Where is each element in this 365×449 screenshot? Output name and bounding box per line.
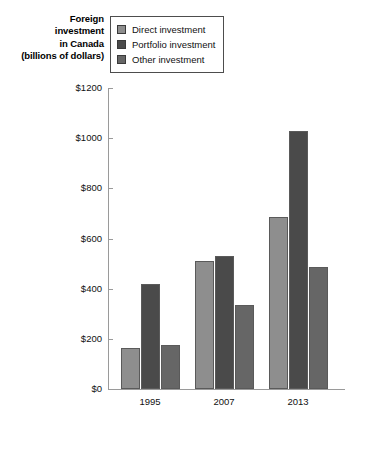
y-tick-label-200: $200: [81, 334, 102, 344]
legend-swatch-other: [117, 55, 126, 64]
y-tick-label-0: $0: [91, 384, 102, 394]
bar-2007-portfolio-investment: [215, 256, 234, 389]
legend-item-other: Other investment: [117, 52, 215, 67]
x-tick-label-2007: 2007: [194, 396, 254, 407]
chart-title-line-4: (billions of dollars): [0, 50, 104, 62]
x-axis-line: [108, 389, 345, 390]
bar-1995-portfolio-investment: [141, 284, 160, 389]
y-tick-label-1200: $1200: [76, 83, 102, 93]
chart-legend: Direct investment Portfolio investment O…: [110, 16, 224, 73]
legend-swatch-portfolio: [117, 40, 126, 49]
chart-title-line-3: in Canada: [0, 38, 104, 50]
legend-label-direct: Direct investment: [132, 24, 205, 35]
legend-item-portfolio: Portfolio investment: [117, 37, 215, 52]
y-tick-label-600: $600: [81, 234, 102, 244]
x-tick-label-1995: 1995: [120, 396, 180, 407]
y-tick-600: [109, 239, 113, 240]
legend-swatch-direct: [117, 25, 126, 34]
bar-2013-other-investment: [309, 267, 328, 389]
bar-1995-other-investment: [161, 345, 180, 389]
y-tick-800: [109, 188, 113, 189]
bar-2013-direct-investment: [269, 217, 288, 389]
bar-2007-other-investment: [235, 305, 254, 389]
chart-title: Foreign investment in Canada (billions o…: [0, 13, 104, 63]
x-tick-label-2013: 2013: [268, 396, 328, 407]
chart-title-line-2: investment: [0, 25, 104, 37]
y-tick-label-1000: $1000: [76, 133, 102, 143]
bar-2013-portfolio-investment: [289, 131, 308, 389]
y-tick-1000: [109, 138, 113, 139]
y-tick-label-800: $800: [81, 183, 102, 193]
legend-label-portfolio: Portfolio investment: [132, 39, 215, 50]
bar-2007-direct-investment: [195, 261, 214, 389]
chart-title-line-1: Foreign: [0, 13, 104, 25]
y-tick-label-400: $400: [81, 284, 102, 294]
plot-area: $0$200$400$600$800$1000$1200 19952007201…: [108, 88, 345, 390]
legend-label-other: Other investment: [132, 54, 204, 65]
bar-1995-direct-investment: [121, 348, 140, 389]
y-tick-1200: [109, 88, 113, 89]
legend-item-direct: Direct investment: [117, 22, 215, 37]
bar-chart: Foreign investment in Canada (billions o…: [0, 0, 365, 449]
y-tick-0: [109, 389, 113, 390]
y-tick-400: [109, 289, 113, 290]
y-axis-tick-labels: $0$200$400$600$800$1000$1200: [50, 88, 102, 390]
y-tick-200: [109, 339, 113, 340]
